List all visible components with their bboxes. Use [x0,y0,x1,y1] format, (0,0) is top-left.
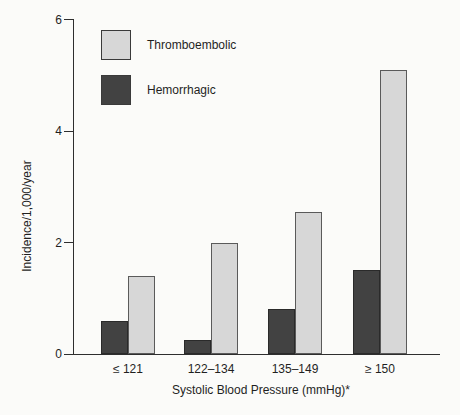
y-tick-mark [64,19,73,20]
y-tick-label: 0 [42,347,62,361]
legend: Thromboembolic Hemorrhagic [101,30,236,120]
hemorrhagic-bar [268,309,295,354]
y-tick-mark [64,131,73,132]
x-axis-line [73,354,440,355]
y-axis-line [73,19,74,355]
hemorrhagic-bar [184,340,211,354]
thromboembolic-bar [380,70,407,354]
y-tick-label: 4 [42,124,62,138]
thromboembolic-legend-label: Thromboembolic [147,38,236,52]
thromboembolic-bar [128,276,155,354]
hemorrhagic-bar [353,270,380,354]
x-category-label: 122–134 [166,362,256,376]
thromboembolic-swatch [101,30,131,60]
y-tick-label: 6 [42,13,62,27]
thromboembolic-bar [211,243,238,355]
hemorrhagic-bar [101,321,128,354]
thromboembolic-bar [295,212,322,354]
x-category-label: ≥ 150 [335,362,425,376]
y-tick-mark [64,242,73,243]
hemorrhagic-legend-label: Hemorrhagic [147,83,216,97]
chart-figure: 0246 ≤ 121122–134135–149≥ 150 Incidence/… [0,0,460,415]
legend-item-thromboembolic: Thromboembolic [101,30,236,60]
legend-item-hemorrhagic: Hemorrhagic [101,75,236,105]
x-category-label: 135–149 [250,362,340,376]
hemorrhagic-swatch [101,75,131,105]
x-category-label: ≤ 121 [83,362,173,376]
y-tick-mark [64,354,73,355]
y-axis-title: Incidence/1,000/year [20,160,34,271]
y-tick-label: 2 [42,236,62,250]
x-axis-title: Systolic Blood Pressure (mmHg)* [172,383,350,397]
